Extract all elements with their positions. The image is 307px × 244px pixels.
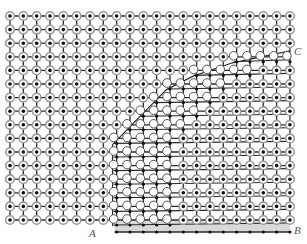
- lattice-svg: [0, 0, 307, 244]
- label-c: C: [294, 45, 301, 57]
- label-b: B: [294, 224, 301, 236]
- dislocation-diagram: A B C: [0, 0, 307, 244]
- label-a: A: [89, 227, 96, 239]
